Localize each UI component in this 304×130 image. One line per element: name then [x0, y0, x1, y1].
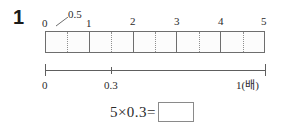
half-divider [155, 32, 156, 52]
answer-input-box[interactable] [158, 102, 194, 122]
bar-scale-label-2: 2 [130, 16, 136, 27]
number-line-tick-0-3 [111, 67, 112, 74]
bar-scale-callout-0-5: 0.5 [68, 9, 82, 20]
equation-row: 5×0.3= [0, 102, 304, 122]
bar-cell [90, 32, 134, 52]
half-divider [67, 32, 68, 52]
bar-scale-label-5: 5 [261, 16, 267, 27]
bar-scale-label-3: 3 [174, 16, 180, 27]
number-line-label-1-bae: 1(배) [236, 80, 259, 91]
half-divider [199, 32, 200, 52]
number-line-label-0-3: 0.3 [104, 80, 118, 91]
equation-expression: 5×0.3= [110, 105, 156, 120]
bar-scale-label-1: 1 [86, 18, 92, 29]
worksheet-problem: 1 0 0.5 1 2 3 4 5 0 0.3 [0, 0, 304, 130]
bar-model [45, 31, 265, 53]
bar-scale-label-0: 0 [42, 18, 48, 29]
problem-number: 1 [13, 7, 24, 27]
number-line [45, 64, 265, 78]
bar-cell [46, 32, 90, 52]
bar-cell [221, 32, 264, 52]
bar-cell [177, 32, 221, 52]
bar-scale-label-4: 4 [218, 16, 224, 27]
number-line-tick-0 [45, 64, 46, 76]
number-line-label-0: 0 [42, 80, 48, 91]
half-divider [111, 32, 112, 52]
bar-cell [134, 32, 178, 52]
number-line-axis [45, 70, 265, 71]
number-line-tick-1 [265, 64, 266, 76]
half-divider [243, 32, 244, 52]
